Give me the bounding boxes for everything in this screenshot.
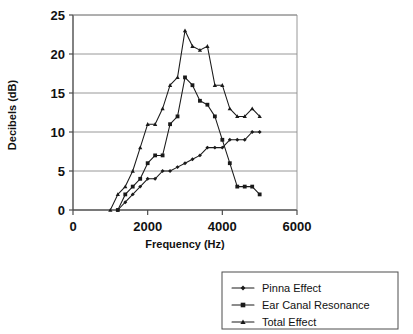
series-marker-square — [250, 185, 254, 189]
x-tick-label: 2000 — [133, 219, 162, 234]
x-tick-label: 6000 — [283, 219, 312, 234]
y-tick-label: 20 — [51, 47, 65, 62]
series-marker-diamond — [183, 161, 187, 165]
series-line — [110, 31, 259, 210]
legend-item-label: Pinna Effect — [262, 282, 321, 294]
series-marker-square — [235, 185, 239, 189]
y-tick-label: 25 — [51, 8, 65, 23]
series-marker-square — [220, 138, 224, 142]
series-marker-square — [183, 76, 187, 80]
series-marker-triangle — [160, 106, 164, 110]
series-marker-square — [168, 122, 172, 126]
y-tick-label: 5 — [58, 164, 65, 179]
y-tick-label: 10 — [51, 125, 65, 140]
plot-axes — [73, 15, 297, 210]
series-marker-square — [176, 115, 180, 119]
series-marker-diamond — [176, 165, 180, 169]
data-series — [108, 28, 262, 211]
y-tick-label: 0 — [58, 203, 65, 218]
plot-grid — [73, 15, 297, 171]
series-marker-triangle — [228, 106, 232, 110]
series-marker-square — [243, 185, 247, 189]
series-marker-triangle — [250, 106, 254, 110]
series-marker-diamond — [235, 138, 239, 142]
legend-item-label: Ear Canal Resonance — [262, 299, 370, 311]
series-marker-triangle — [183, 28, 187, 32]
series-marker-square — [116, 208, 120, 212]
series-marker-square — [206, 103, 210, 107]
series-marker-triangle — [205, 44, 209, 48]
x-tick-label: 4000 — [208, 219, 237, 234]
series-marker-square — [241, 303, 246, 308]
series-marker-square — [131, 185, 135, 189]
series-marker-square — [228, 161, 232, 165]
series-total-effect — [108, 28, 262, 211]
series-marker-square — [161, 154, 165, 158]
series-marker-square — [191, 83, 195, 87]
series-marker-square — [123, 193, 127, 197]
series-marker-triangle — [175, 75, 179, 79]
series-line — [118, 77, 260, 210]
series-marker-square — [258, 193, 262, 197]
series-marker-square — [138, 177, 142, 181]
y-axis-title: Decibels (dB) — [6, 80, 18, 151]
series-marker-square — [213, 115, 217, 119]
series-marker-square — [198, 99, 202, 103]
x-axis-title: Frequency (Hz) — [145, 238, 225, 250]
y-tick-labels: 0510152025 — [51, 8, 73, 218]
x-tick-label: 0 — [69, 219, 76, 234]
series-ear-canal-resonance — [116, 76, 262, 212]
x-tick-labels: 0200040006000 — [69, 210, 311, 234]
series-marker-triangle — [123, 184, 127, 188]
series-marker-diamond — [168, 169, 172, 173]
series-marker-square — [146, 161, 150, 165]
chart-legend: Pinna EffectEar Canal ResonanceTotal Eff… — [222, 272, 398, 329]
series-marker-diamond — [191, 157, 195, 161]
series-marker-triangle — [190, 44, 194, 48]
series-marker-diamond — [213, 146, 217, 150]
series-marker-diamond — [258, 130, 262, 134]
series-marker-square — [153, 154, 157, 158]
legend-item-label: Total Effect — [262, 316, 316, 328]
y-tick-label: 15 — [51, 86, 65, 101]
series-marker-triangle — [138, 145, 142, 149]
chart-figure: 0200040006000 0510152025 Frequency (Hz) … — [0, 0, 413, 334]
